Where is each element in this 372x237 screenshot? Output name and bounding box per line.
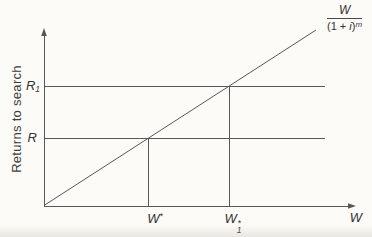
w1star-supsub: *1 <box>237 220 242 234</box>
wstar-tick-label: W* <box>143 212 167 225</box>
r1-tick-label: R1 <box>18 79 40 92</box>
wage-present-value-line <box>44 30 316 206</box>
wage-line-label: W (1 + i)m <box>327 4 362 32</box>
r-tick-label: R <box>15 131 37 144</box>
denominator-exponent: m <box>355 20 362 29</box>
r1-subscript: 1 <box>35 84 40 94</box>
w1star-base: W <box>224 211 236 226</box>
w1star-subscript: 1 <box>237 227 242 234</box>
figure: Returns to search R1 R W* W*1 W W (1 + i… <box>0 0 372 237</box>
x-axis-arrowhead <box>348 203 356 209</box>
wstar-base: W <box>147 211 159 226</box>
x-axis-label: W <box>346 211 366 224</box>
denominator-open: (1 + <box>327 20 349 32</box>
fraction-numerator: W <box>327 4 362 19</box>
plot-lines <box>0 0 372 237</box>
y-axis-arrowhead <box>41 28 47 36</box>
fraction-denominator: (1 + i)m <box>327 19 362 32</box>
r-base: R <box>28 130 37 145</box>
r1-base: R <box>26 78 35 93</box>
wstar-superscript: * <box>159 211 162 221</box>
w1star-tick-label: W*1 <box>221 212 245 234</box>
